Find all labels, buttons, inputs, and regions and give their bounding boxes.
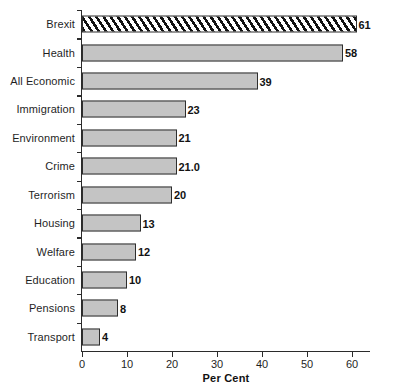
bar: 61 [82,16,357,33]
category-label: Welfare [37,246,75,258]
x-axis-tick [127,352,128,357]
bar: 23 [82,101,186,118]
bar: 21.0 [82,158,177,175]
bar: 20 [82,186,172,203]
category-label: Environment [12,132,75,144]
bar: 12 [82,243,136,260]
bar-chart: Brexit61Health58All Economic39Immigratio… [0,0,399,391]
x-axis-tick [172,352,173,357]
x-axis-tick-label: 20 [166,358,178,370]
bar-value-label: 39 [260,75,272,87]
category-label: Pensions [29,302,75,314]
y-axis-tick [77,294,82,295]
bar-row: Environment21 [82,124,370,152]
category-label: All Economic [10,75,75,87]
bar-row: Health58 [82,38,370,66]
bar-value-label: 21.0 [179,160,200,172]
y-axis-tick [77,323,82,324]
bar-row: Housing13 [82,209,370,237]
x-axis-tick-label: 50 [301,358,313,370]
category-label: Immigration [16,103,75,115]
bar-rows: Brexit61Health58All Economic39Immigratio… [82,10,370,351]
bar-row: Crime21.0 [82,152,370,180]
y-axis-tick [77,67,82,68]
x-axis-tick [307,352,308,357]
x-axis-tick-label: 10 [121,358,133,370]
bar-value-label: 13 [143,217,155,229]
bar-value-label: 20 [174,189,186,201]
bar: 8 [82,300,118,317]
bar-value-label: 10 [129,274,141,286]
x-axis-tick [217,352,218,357]
bar-row: Transport4 [82,323,370,351]
category-label: Education [25,274,75,286]
y-axis-tick [77,237,82,238]
bar-value-label: 23 [188,103,200,115]
bar-row: Brexit61 [82,10,370,38]
y-axis-tick [77,95,82,96]
x-axis-tick-label: 60 [346,358,358,370]
bar-value-label: 61 [359,18,371,30]
y-axis-tick [77,124,82,125]
category-label: Housing [34,217,75,229]
category-label: Crime [45,160,75,172]
bar-row: Terrorism20 [82,181,370,209]
x-axis-tick [262,352,263,357]
bar: 21 [82,129,177,146]
x-axis-tick-label: 40 [256,358,268,370]
x-axis-tick [352,352,353,357]
y-axis-tick [77,152,82,153]
bar: 4 [82,328,100,345]
x-axis-ticks: 0102030405060 [82,352,370,374]
bar-row: Education10 [82,266,370,294]
bar-row: All Economic39 [82,67,370,95]
x-axis-tick-label: 30 [211,358,223,370]
x-axis-tick [82,352,83,357]
bar-value-label: 8 [120,302,126,314]
bar-row: Welfare12 [82,237,370,265]
y-axis-tick [77,10,82,11]
bar-row: Pensions8 [82,294,370,322]
category-label: Terrorism [28,189,75,201]
bar: 13 [82,215,141,232]
category-label: Brexit [46,18,75,30]
y-axis-tick [77,266,82,267]
bar-value-label: 4 [102,331,108,343]
bar-value-label: 58 [345,47,357,59]
y-axis-tick [77,209,82,210]
bar: 10 [82,271,127,288]
y-axis-tick [77,38,82,39]
x-axis-tick-label: 0 [79,358,85,370]
category-label: Health [43,47,75,59]
bar: 39 [82,73,258,90]
bar-row: Immigration23 [82,95,370,123]
bar-value-label: 21 [179,132,191,144]
category-label: Transport [27,331,75,343]
bar-value-label: 12 [138,246,150,258]
x-axis-title: Per Cent [82,372,370,384]
bar: 58 [82,44,343,61]
y-axis-tick [77,181,82,182]
